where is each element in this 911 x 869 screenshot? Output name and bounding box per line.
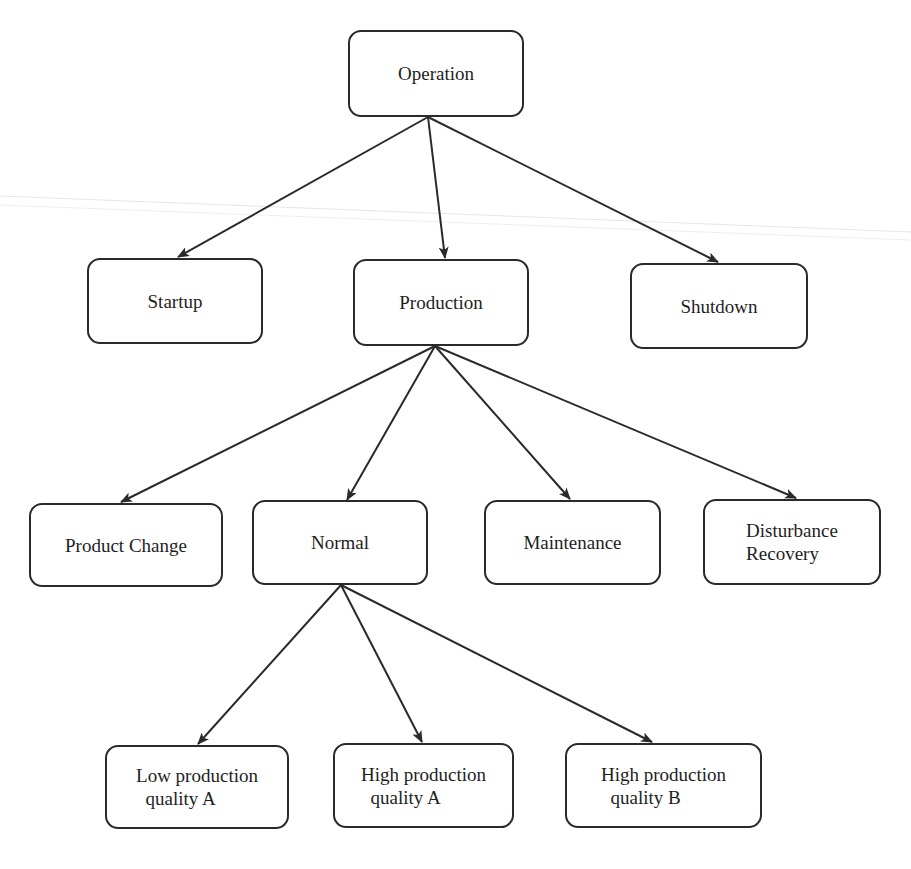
node-label: High production quality B xyxy=(601,763,726,809)
node-disturbance-recovery: Disturbance Recovery xyxy=(703,499,881,585)
node-low-prod-a: Low production quality A xyxy=(105,745,289,829)
arrow-operation-to-production xyxy=(428,117,445,258)
node-label: Product Change xyxy=(65,534,187,557)
operation-mode-tree-diagram: OperationStartupProductionShutdownProduc… xyxy=(0,0,911,869)
arrow-production-to-disturbance_recovery xyxy=(435,346,796,498)
node-label: Startup xyxy=(148,290,203,313)
node-production: Production xyxy=(353,259,529,346)
scan-artifact-line xyxy=(0,196,911,232)
node-label: Shutdown xyxy=(680,295,757,318)
node-label: Operation xyxy=(398,62,474,85)
scan-artifact-line xyxy=(0,205,911,240)
node-shutdown: Shutdown xyxy=(630,263,808,349)
node-startup: Startup xyxy=(87,258,263,344)
arrow-production-to-maintenance xyxy=(435,346,570,499)
node-label: Production xyxy=(399,291,482,314)
arrow-operation-to-startup xyxy=(178,117,428,257)
node-high-prod-b: High production quality B xyxy=(565,743,762,828)
node-high-prod-a: High production quality A xyxy=(333,743,514,828)
node-label: Disturbance Recovery xyxy=(746,519,838,565)
node-label: Normal xyxy=(311,531,369,554)
node-maintenance: Maintenance xyxy=(484,500,661,585)
arrow-normal-to-high_prod_a xyxy=(341,585,422,742)
node-normal: Normal xyxy=(252,500,428,585)
node-label: High production quality A xyxy=(361,763,486,809)
arrow-normal-to-low_prod_a xyxy=(198,585,341,744)
arrow-operation-to-shutdown xyxy=(428,117,718,262)
arrow-production-to-normal xyxy=(347,346,435,500)
arrow-normal-to-high_prod_b xyxy=(341,585,652,742)
node-operation: Operation xyxy=(348,30,524,117)
edges-layer xyxy=(0,0,911,869)
arrow-production-to-product_change xyxy=(121,346,435,502)
node-label: Maintenance xyxy=(523,531,621,554)
node-label: Low production quality A xyxy=(136,764,258,810)
node-product-change: Product Change xyxy=(29,503,223,587)
